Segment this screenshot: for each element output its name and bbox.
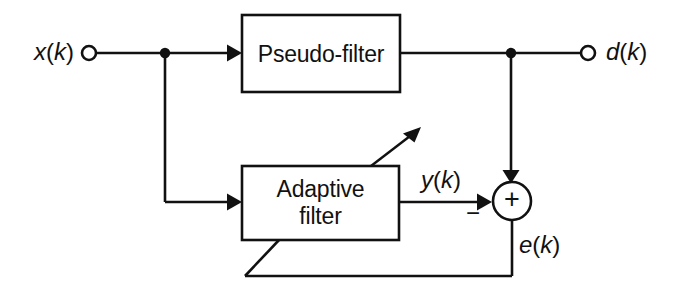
desired-signal-var: d: [606, 38, 619, 65]
input-signal-index: k: [54, 38, 66, 65]
wire-feedback-diagonal-into-adaptive-filter: [245, 240, 279, 276]
adaptive-filter-label-line2: filter: [242, 203, 399, 230]
error-signal-label: e(k): [519, 231, 560, 259]
error-signal-index: k: [540, 231, 552, 258]
pseudo-filter-label: Pseudo-filter: [242, 41, 400, 68]
desired-signal-index: k: [627, 38, 639, 65]
desired-tap-dot: [506, 48, 516, 58]
error-signal-var: e: [519, 231, 532, 258]
filter-output-index: k: [441, 166, 453, 193]
wire-adaptation-arrow: [371, 133, 414, 166]
arrowhead-into-adaptive-filter: [227, 194, 242, 211]
input-signal-var: x: [34, 38, 46, 65]
output-terminal-circle[interactable]: [581, 46, 595, 60]
sum-minus-sign: −: [466, 201, 480, 225]
input-signal-label: x(k): [34, 38, 74, 66]
filter-output-var: y: [421, 166, 433, 193]
input-tap-dot: [160, 48, 170, 58]
adaptive-filter-label-line1: Adaptive: [242, 176, 399, 203]
input-terminal-circle[interactable]: [82, 46, 96, 60]
sum-plus-sign: +: [504, 186, 520, 213]
desired-signal-label: d(k): [606, 38, 647, 66]
arrowhead-into-pseudo-filter: [227, 45, 242, 62]
filter-output-signal-label: y(k): [421, 166, 461, 194]
adaptive-filter-block-diagram: Pseudo-filter Adaptive filter x(k) d(k) …: [0, 0, 685, 292]
